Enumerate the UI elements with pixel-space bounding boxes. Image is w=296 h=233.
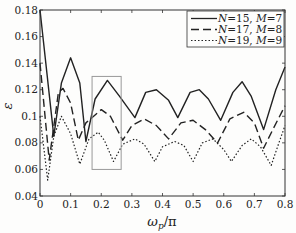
x-tick-label: 0.8 [277, 198, 294, 210]
chart: 0.040.060.080.10.120.140.160.18 00.10.20… [0, 0, 296, 233]
y-tick-label: 0.18 [15, 4, 38, 16]
x-tick-label: 0.1 [62, 198, 79, 210]
x-tick-label: 0.2 [93, 198, 110, 210]
y-tick-label: 0.1 [21, 110, 38, 122]
x-axis-title-omega: ω [147, 214, 158, 229]
series-dashed-line [40, 63, 285, 160]
x-tick-label: 0.5 [185, 198, 202, 210]
x-tick-label: 0.6 [215, 198, 232, 210]
y-tick-label: 0.08 [15, 136, 38, 148]
y-tick-label: 0.14 [15, 57, 39, 69]
y-tick-labels: 0.040.060.080.10.120.140.160.18 [15, 4, 39, 202]
y-tick-label: 0.04 [15, 190, 39, 202]
x-tick-label: 0.3 [124, 198, 141, 210]
y-tick-label: 0.06 [15, 163, 39, 175]
x-tick-label: 0 [37, 198, 44, 210]
legend: N=15, M=7 N=17, M=8 N=19, M=9 [187, 11, 284, 47]
x-tick-labels: 00.10.20.30.40.50.60.70.8 [37, 198, 294, 210]
legend-label: N=19, M=9 [217, 34, 282, 46]
x-tick-label: 0.4 [154, 198, 171, 210]
y-tick-label: 0.12 [15, 83, 38, 95]
y-tick-label: 0.16 [15, 30, 39, 42]
x-tick-label: 0.7 [246, 198, 263, 210]
x-axis-title-pi: /π [164, 214, 177, 229]
x-axis-title: ωp/π [147, 214, 177, 231]
y-axis-title: ε [0, 102, 15, 109]
series-dotted-line [40, 116, 285, 180]
line-chart: 0.040.060.080.10.120.140.160.18 00.10.20… [0, 0, 296, 233]
